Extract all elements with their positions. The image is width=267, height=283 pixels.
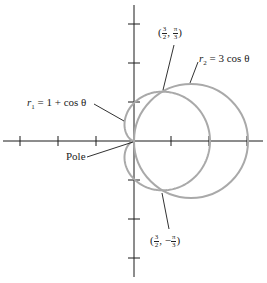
fraction-denominator: 2 xyxy=(163,34,167,41)
equation-text: = 3 cos θ xyxy=(210,52,250,64)
equation-text: = 1 + cos θ xyxy=(38,96,87,108)
intersection-label-upper: (32, π3) xyxy=(158,26,182,41)
r1-label: r1 = 1 + cos θ xyxy=(27,97,86,111)
fraction-denominator: 3 xyxy=(174,34,178,41)
fraction-denominator: 3 xyxy=(172,242,176,249)
intersection-label-lower: (32, −π3) xyxy=(150,234,180,249)
subscript: 1 xyxy=(31,103,35,111)
polar-diagram xyxy=(0,0,267,283)
fraction-denominator: 2 xyxy=(155,242,159,249)
subscript: 2 xyxy=(203,59,207,67)
pole-label: Pole xyxy=(66,151,86,162)
r2-label: r2 = 3 cos θ xyxy=(199,53,249,67)
leader-lines xyxy=(87,45,198,229)
